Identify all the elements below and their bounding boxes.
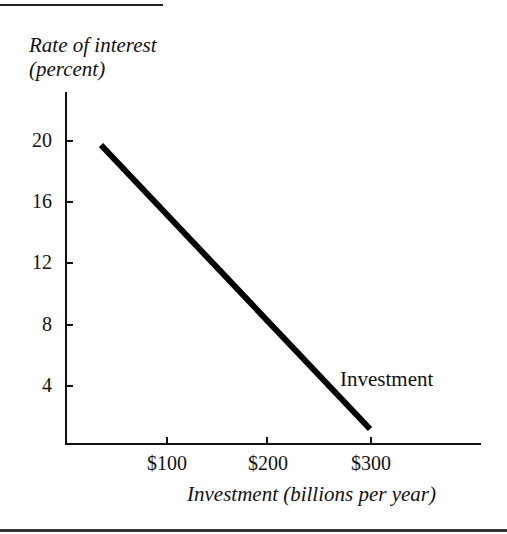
bottom-rule [0,529,507,532]
y-tick-4: 4 [22,374,52,397]
y-tick-16: 16 [22,190,52,213]
x-tick-200: $200 [238,452,298,475]
series-label-investment: Investment [340,367,433,392]
y-tick-12: 12 [22,251,52,274]
y-tick-20: 20 [22,129,52,152]
y-tick-8: 8 [22,313,52,336]
x-tick-100: $100 [137,452,197,475]
x-tick-300: $300 [341,452,401,475]
investment-line [101,145,370,429]
x-axis-label: Investment (billions per year) [187,482,436,507]
